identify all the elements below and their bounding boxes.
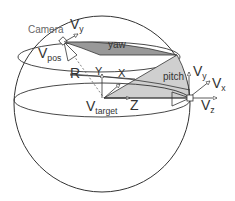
camera-label: Camera [28,25,64,35]
right-node [187,95,193,101]
camera-vy-arrow [64,34,78,42]
camera-vy-label: Vy [70,17,84,34]
axis-y-label: Y [95,66,102,77]
radius-label: R [70,66,80,80]
axis-x-label: X [118,68,125,79]
yaw-label: yaw [108,40,126,50]
right-vx-label: Vx [212,76,226,93]
vtarget-label: Vtarget [86,99,118,116]
right-vx-arrow [191,81,210,96]
axis-z-label: Z [130,98,139,112]
vpos-label: Vpos [38,46,61,63]
right-vz-label: Vz [201,98,215,115]
right-vy-label: Vy [193,64,207,81]
pitch-label: pitch [163,72,184,82]
